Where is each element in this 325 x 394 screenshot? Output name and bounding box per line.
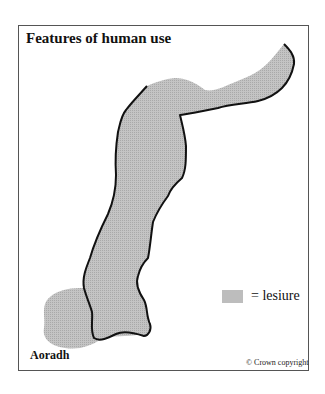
map-title: Features of human use [26,30,171,47]
map-canvas [0,0,325,394]
place-label-aoradh: Aoradh [30,348,69,363]
copyright-notice: © Crown copyright [246,358,309,367]
legend-swatch-leisure [222,290,243,303]
legend-label-leisure: = lesiure [251,288,300,304]
